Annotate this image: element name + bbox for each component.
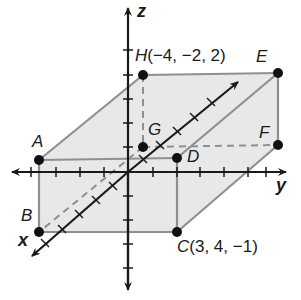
x-axis-label: x: [18, 231, 28, 249]
label-g: G: [148, 121, 161, 138]
point-d: [172, 153, 182, 163]
point-a: [34, 155, 44, 165]
point-f: [273, 140, 283, 150]
point-c: [172, 227, 182, 237]
z-axis-label: z: [137, 2, 146, 20]
point-h: [138, 70, 148, 80]
label-e: E: [256, 48, 267, 65]
y-axis-label: y: [276, 176, 286, 194]
point-g: [138, 142, 148, 152]
point-b: [34, 227, 44, 237]
prism-faces: [39, 73, 278, 232]
label-h: H(−4, −2, 2): [135, 47, 226, 64]
label-b: B: [21, 207, 32, 224]
point-e: [273, 68, 283, 78]
label-d: D: [187, 148, 199, 165]
label-c: C(3, 4, −1): [177, 238, 258, 255]
label-a: A: [32, 133, 43, 150]
label-f: F: [259, 124, 269, 141]
